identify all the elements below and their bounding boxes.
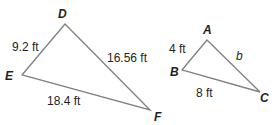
side-ac-variable: b [236, 49, 243, 63]
triangle-def [22, 24, 150, 110]
triangle-abc [182, 40, 260, 92]
side-df-length: 16.56 ft [107, 51, 148, 65]
vertex-b-label: B [170, 65, 179, 79]
vertex-c-label: C [260, 91, 269, 105]
similar-triangles-diagram: D E F 9.2 ft 16.56 ft 18.4 ft A B C 4 ft… [0, 0, 280, 125]
side-de-length: 9.2 ft [12, 40, 39, 54]
vertex-f-label: F [154, 110, 162, 124]
side-ab-length: 4 ft [169, 42, 186, 56]
side-bc-length: 8 ft [196, 86, 213, 100]
side-ef-length: 18.4 ft [47, 94, 81, 108]
vertex-a-label: A [202, 23, 212, 37]
vertex-d-label: D [58, 7, 67, 21]
vertex-e-label: E [5, 69, 14, 83]
